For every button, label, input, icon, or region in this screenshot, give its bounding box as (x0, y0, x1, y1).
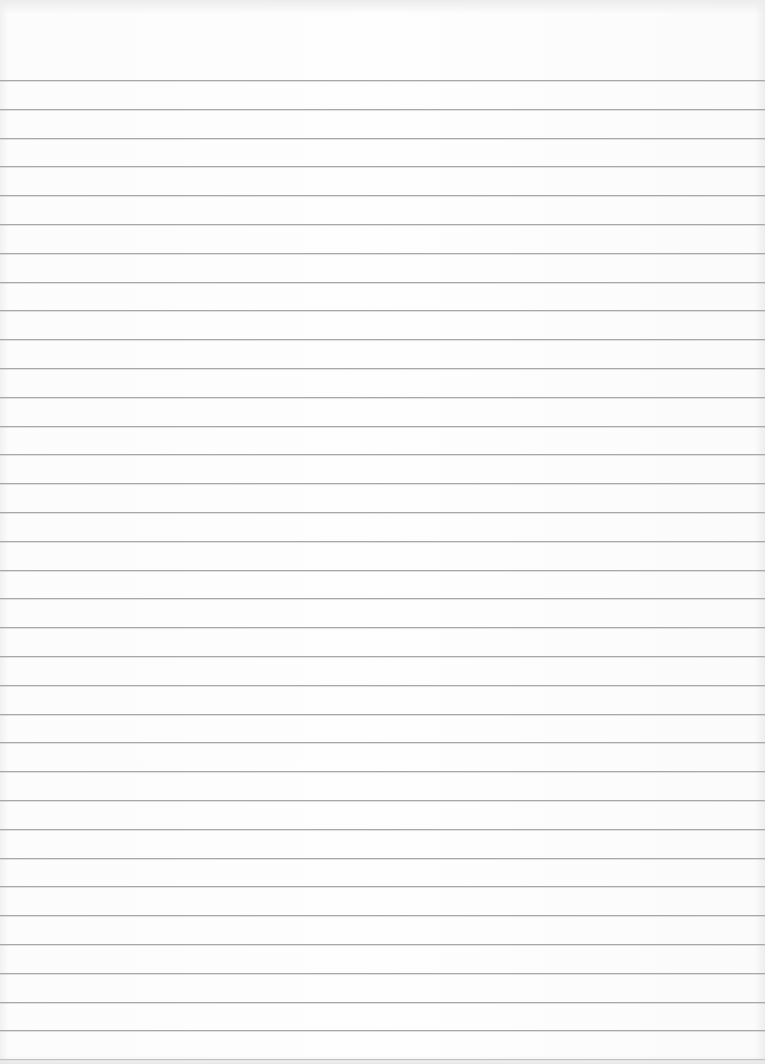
ruled-line (0, 426, 765, 427)
ruled-line (0, 397, 765, 398)
ruled-line (0, 1030, 765, 1031)
ruled-line (0, 742, 765, 743)
ruled-line (0, 80, 765, 81)
ruled-line (0, 800, 765, 801)
bottom-edge-shadow (0, 1056, 765, 1064)
ruled-line (0, 973, 765, 974)
ruled-line (0, 915, 765, 916)
ruled-line (0, 454, 765, 455)
top-edge-shadow (0, 0, 765, 14)
ruled-line (0, 570, 765, 571)
ruled-line (0, 282, 765, 283)
ruled-line (0, 339, 765, 340)
ruled-line (0, 627, 765, 628)
ruled-line (0, 195, 765, 196)
ruled-line (0, 685, 765, 686)
ruled-line (0, 944, 765, 945)
ruled-line (0, 253, 765, 254)
ruled-line (0, 656, 765, 657)
ruled-line (0, 829, 765, 830)
ruled-line (0, 483, 765, 484)
ruled-line (0, 598, 765, 599)
ruled-line (0, 138, 765, 139)
ruled-line (0, 1002, 765, 1003)
ruled-line (0, 368, 765, 369)
ruled-line (0, 886, 765, 887)
ruled-line (0, 714, 765, 715)
ruled-line (0, 310, 765, 311)
ruled-line (0, 224, 765, 225)
ruled-line (0, 512, 765, 513)
ruled-line (0, 541, 765, 542)
ruled-line (0, 166, 765, 167)
ruled-line (0, 858, 765, 859)
ruled-paper-sheet (0, 0, 765, 1064)
ruled-line (0, 109, 765, 110)
ruled-line (0, 771, 765, 772)
